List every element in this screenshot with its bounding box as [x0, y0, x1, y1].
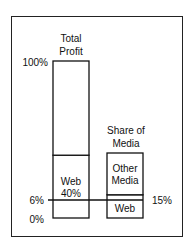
segment-label: Web: [115, 203, 136, 214]
segment-label: 40%: [61, 188, 81, 199]
bar-segment: [53, 61, 89, 155]
segment-label: Other: [112, 163, 138, 174]
segment-label: Web: [61, 176, 82, 187]
chart: Web40%TotalProfitWebOtherMediaShare ofMe…: [0, 0, 194, 249]
reference-left-label: 6%: [30, 195, 45, 206]
bar-title: Media: [112, 138, 140, 149]
y-tick-label-bottom: 0%: [30, 214, 45, 225]
reference-right-label: 15%: [152, 195, 172, 206]
bar-title: Total: [60, 33, 81, 44]
bar-title: Share of: [107, 125, 145, 136]
bar-title: Profit: [59, 46, 83, 57]
y-tick-label-top: 100%: [22, 57, 48, 68]
segment-label: Media: [111, 175, 139, 186]
